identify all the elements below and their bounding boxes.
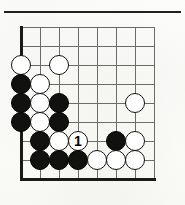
white-stone[interactable] xyxy=(11,55,31,75)
black-stone[interactable] xyxy=(106,131,126,151)
white-stone[interactable] xyxy=(106,150,126,170)
black-stone[interactable] xyxy=(11,74,31,94)
grid-line-horizontal-3 xyxy=(21,65,154,66)
white-stone[interactable] xyxy=(49,131,69,151)
black-stone[interactable] xyxy=(49,93,69,113)
black-stone[interactable] xyxy=(11,93,31,113)
white-stone[interactable] xyxy=(30,112,50,132)
black-stone[interactable] xyxy=(49,112,69,132)
black-stone[interactable] xyxy=(30,150,50,170)
black-stone[interactable] xyxy=(30,131,50,151)
grid-line-horizontal-2 xyxy=(21,46,154,47)
go-board[interactable]: 1 xyxy=(0,0,185,205)
go-diagram-figure: 1 xyxy=(0,0,185,205)
white-stone[interactable] xyxy=(125,150,145,170)
white-stone[interactable] xyxy=(49,55,69,75)
black-stone[interactable] xyxy=(11,112,31,132)
white-stone[interactable] xyxy=(68,131,88,151)
white-stone[interactable] xyxy=(30,93,50,113)
black-stone[interactable] xyxy=(49,150,69,170)
board-edge-bottom xyxy=(20,178,156,181)
grid-line-vertical-8 xyxy=(154,27,155,179)
black-stone[interactable] xyxy=(68,150,88,170)
white-stone[interactable] xyxy=(87,150,107,170)
white-stone[interactable] xyxy=(30,74,50,94)
grid-line-horizontal-1 xyxy=(21,27,154,28)
white-stone[interactable] xyxy=(125,131,145,151)
white-stone[interactable] xyxy=(125,93,145,113)
